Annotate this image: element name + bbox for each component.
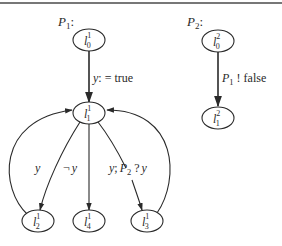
svg-text:l13: l13 [142,212,149,231]
process-p2-title: P2: [186,14,203,31]
svg-text:l14: l14 [84,212,91,231]
node-l0-1: l10 [73,29,105,51]
edge-label-receive: y;P2?y [108,161,148,177]
node-l1-2: l21 [202,107,234,129]
transition-diagram: P1: y: = true y ¬y y;P2?y l10 l1 [0,0,282,246]
edge-label-assign: y: = true [92,71,133,85]
svg-text:l20: l20 [213,32,220,51]
process-p1-title: P1: [57,14,74,31]
svg-text:l10: l10 [84,31,91,50]
edge-label-y: y [34,161,41,175]
edge-label-neg-y: ¬y [63,161,78,175]
process-p1: P1: y: = true y ¬y y;P2?y l10 l1 [9,14,170,232]
svg-text:l21: l21 [213,109,220,128]
process-p2: P2: P1! false l20 l21 [186,14,266,129]
svg-text:l12: l12 [33,212,40,231]
node-l3-1: l13 [131,210,163,232]
svg-text:l11: l11 [84,104,91,123]
node-l4-1: l14 [73,210,105,232]
node-l1-1: l11 [73,102,105,124]
edge-label-send: P1! false [221,71,266,87]
node-l0-2: l20 [202,30,234,52]
node-l2-1: l12 [22,210,54,232]
